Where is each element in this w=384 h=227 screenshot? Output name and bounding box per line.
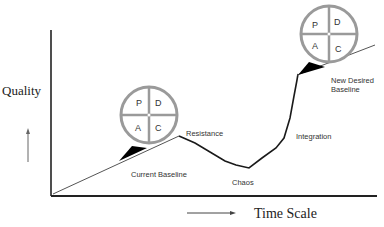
up-arrow-icon xyxy=(26,128,30,162)
label-current-baseline: Current Baseline xyxy=(131,170,187,179)
pdca-right-c: C xyxy=(335,44,342,54)
pdca-left-a: A xyxy=(135,123,141,133)
pdca-wheel-left: P D A C xyxy=(121,87,177,143)
label-chaos: Chaos xyxy=(232,178,254,187)
pdca-wheel-right: P D A C xyxy=(301,6,357,62)
wedge-left-icon xyxy=(119,146,147,161)
label-baseline: Baseline xyxy=(331,85,360,94)
label-integration: Integration xyxy=(296,132,331,141)
quality-curve xyxy=(179,74,298,168)
current-baseline-line xyxy=(53,136,179,194)
pdca-left-p: P xyxy=(136,98,142,108)
pdca-right-d: D xyxy=(334,17,341,27)
x-axis-label: Time Scale xyxy=(254,206,317,221)
y-axis-label: Quality xyxy=(2,83,41,98)
label-new-desired: New Desired xyxy=(331,76,374,85)
pdca-right-a: A xyxy=(312,41,318,51)
wedge-right-icon xyxy=(298,62,325,75)
pdca-right-p: P xyxy=(312,20,318,30)
pdca-left-c: C xyxy=(155,123,162,133)
pdca-left-d: D xyxy=(155,98,162,108)
pdca-quality-diagram: Quality Time Scale P D A C P D A C Cu xyxy=(0,0,384,227)
label-resistance: Resistance xyxy=(186,129,223,138)
right-arrow-icon xyxy=(187,211,236,215)
